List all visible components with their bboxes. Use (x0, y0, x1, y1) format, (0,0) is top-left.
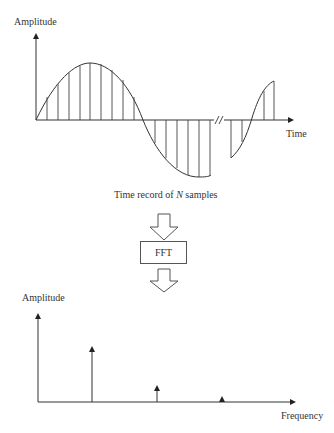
frequency-domain-plot (38, 316, 293, 402)
time-x-axis-label: Time (286, 129, 307, 139)
fft-diagram (0, 0, 334, 433)
time-domain-plot (36, 36, 291, 177)
caption-var: N (176, 189, 183, 200)
freq-y-axis-label: Amplitude (22, 293, 65, 303)
axis-break-icon (215, 116, 223, 124)
caption-suffix: samples (183, 189, 218, 200)
freq-x-axis-label: Frequency (281, 411, 323, 421)
down-arrow-icon-2 (150, 269, 178, 292)
time-record-caption: Time record of N samples (114, 190, 218, 200)
down-arrow-icon-1 (150, 214, 178, 240)
time-y-axis-label: Amplitude (14, 17, 57, 27)
fft-label: FFT (155, 247, 172, 258)
caption-prefix: Time record of (114, 189, 176, 200)
fft-block: FFT (140, 241, 187, 264)
